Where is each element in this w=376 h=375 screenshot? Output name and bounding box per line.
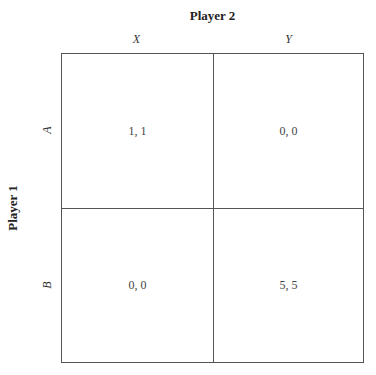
payoff-matrix: 1, 1 0, 0 0, 0 5, 5 [61, 53, 364, 363]
column-strategy-x: X [61, 32, 212, 47]
payoff-cell-a-y: 0, 0 [214, 54, 363, 209]
column-strategy-y: Y [213, 32, 364, 47]
payoff-cell-b-y: 5, 5 [214, 209, 363, 362]
column-player-label: Player 2 [61, 8, 364, 24]
row-player-label: Player 1 [5, 185, 21, 231]
row-strategy-a: A [40, 126, 55, 133]
payoff-cell-b-x: 0, 0 [62, 209, 214, 362]
payoff-cell-a-x: 1, 1 [62, 54, 214, 209]
row-strategy-b: B [40, 281, 55, 288]
